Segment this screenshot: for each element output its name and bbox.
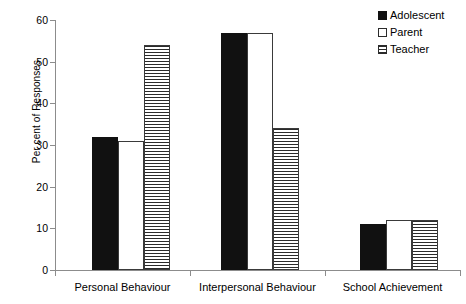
legend-swatch-icon bbox=[378, 11, 387, 20]
bar-adolescent-interpersonal-behaviour[interactable] bbox=[221, 33, 247, 271]
y-axis-tick bbox=[50, 20, 56, 21]
legend-item-parent[interactable]: Parent bbox=[378, 25, 466, 40]
x-axis-tick bbox=[55, 270, 56, 276]
x-axis-category-label: Personal Behaviour bbox=[55, 281, 190, 293]
y-axis-tick-label: 40 bbox=[4, 98, 48, 108]
legend-item-teacher[interactable]: Teacher bbox=[378, 42, 466, 57]
y-axis-tick bbox=[50, 62, 56, 63]
bar-parent-school-achievement[interactable] bbox=[386, 220, 412, 270]
bar-parent-interpersonal-behaviour[interactable] bbox=[247, 33, 273, 271]
y-axis-tick-label: 20 bbox=[4, 182, 48, 192]
legend-item-label: Teacher bbox=[390, 44, 429, 55]
y-axis-tick-label: 60 bbox=[4, 15, 48, 25]
x-axis-tick bbox=[325, 270, 326, 276]
y-axis-tick-label: 30 bbox=[4, 140, 48, 150]
bar-group bbox=[92, 20, 170, 270]
y-axis-tick-label: 10 bbox=[4, 223, 48, 233]
legend-item-label: Parent bbox=[390, 27, 422, 38]
x-axis-line bbox=[55, 270, 460, 271]
y-axis-tick bbox=[50, 228, 56, 229]
bar-parent-personal-behaviour[interactable] bbox=[118, 141, 144, 270]
y-axis-tick bbox=[50, 145, 56, 146]
y-axis-tick bbox=[50, 103, 56, 104]
legend-item-label: Adolescent bbox=[390, 10, 444, 21]
y-axis-tick-labels: 0102030405060 bbox=[0, 0, 48, 304]
y-axis-tick bbox=[50, 187, 56, 188]
bar-teacher-school-achievement[interactable] bbox=[412, 220, 438, 270]
x-axis-tick bbox=[190, 270, 191, 276]
legend-swatch-icon bbox=[378, 45, 387, 54]
y-axis-tick-label: 0 bbox=[4, 265, 48, 275]
bar-chart: Per cent of Responses 0102030405060 Adol… bbox=[0, 0, 466, 304]
legend-swatch-icon bbox=[378, 28, 387, 37]
y-axis-tick-label: 50 bbox=[4, 57, 48, 67]
x-axis-category-label: Interpersonal Behaviour bbox=[190, 281, 325, 293]
x-axis-category-label: School Achievement bbox=[325, 281, 460, 293]
bar-teacher-personal-behaviour[interactable] bbox=[144, 45, 170, 270]
bar-adolescent-school-achievement[interactable] bbox=[360, 224, 386, 270]
bar-group bbox=[221, 20, 299, 270]
x-axis-tick bbox=[460, 270, 461, 276]
legend-item-adolescent[interactable]: Adolescent bbox=[378, 8, 466, 23]
bar-adolescent-personal-behaviour[interactable] bbox=[92, 137, 118, 270]
legend: AdolescentParentTeacher bbox=[378, 8, 466, 59]
bar-teacher-interpersonal-behaviour[interactable] bbox=[273, 128, 299, 270]
